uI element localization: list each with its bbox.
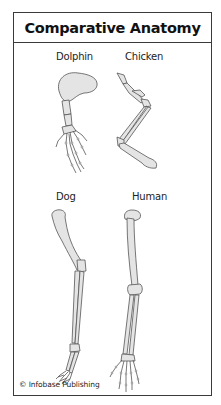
human-arm-illustration — [14, 13, 213, 397]
diagram-frame: Comparative Anatomy Dolphin Ch — [13, 12, 212, 396]
copyright-credit: © Infobase Publishing — [19, 380, 100, 389]
